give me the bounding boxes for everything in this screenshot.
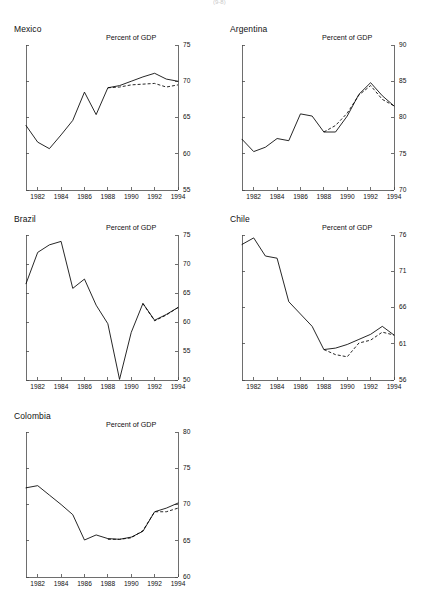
ytick-label: 60 bbox=[183, 150, 191, 157]
ytick-label: 61 bbox=[399, 340, 407, 347]
xtick-label: 1984 bbox=[54, 193, 69, 200]
plot-area-brazil: 5055606570751982198419861988199019921994 bbox=[6, 214, 210, 400]
xtick-label: 1988 bbox=[101, 580, 116, 587]
series-line-dashed bbox=[324, 332, 394, 357]
plot-area-mexico: 55606570751982198419861988199019921994 bbox=[6, 24, 210, 210]
chart-panel-mexico: MexicoPercent of GDP55606570751982198419… bbox=[6, 24, 210, 210]
series-line-solid bbox=[242, 83, 394, 152]
xtick-label: 1994 bbox=[387, 193, 402, 200]
ytick-label: 70 bbox=[183, 77, 191, 84]
xtick-label: 1988 bbox=[101, 193, 116, 200]
ytick-label: 80 bbox=[399, 113, 407, 120]
series-line-solid bbox=[242, 238, 394, 350]
ytick-label: 55 bbox=[183, 347, 191, 354]
ytick-label: 60 bbox=[183, 573, 191, 580]
xtick-label: 1992 bbox=[147, 580, 162, 587]
ytick-label: 75 bbox=[183, 464, 191, 471]
ytick-label: 75 bbox=[183, 41, 191, 48]
xtick-label: 1990 bbox=[124, 580, 139, 587]
ytick-label: 60 bbox=[183, 318, 191, 325]
xtick-label: 1992 bbox=[363, 383, 378, 390]
xtick-label: 1982 bbox=[30, 580, 45, 587]
ytick-label: 50 bbox=[183, 376, 191, 383]
xtick-label: 1992 bbox=[147, 383, 162, 390]
xtick-label: 1986 bbox=[77, 193, 92, 200]
page-number-artifact: (9-8) bbox=[213, 0, 226, 6]
xtick-label: 1984 bbox=[270, 383, 285, 390]
xtick-label: 1984 bbox=[270, 193, 285, 200]
ytick-label: 56 bbox=[399, 376, 407, 383]
xtick-label: 1982 bbox=[30, 193, 45, 200]
ytick-label: 71 bbox=[399, 267, 407, 274]
ytick-label: 75 bbox=[183, 231, 191, 238]
ytick-label: 66 bbox=[399, 303, 407, 310]
ytick-label: 76 bbox=[399, 231, 407, 238]
xtick-label: 1982 bbox=[246, 383, 261, 390]
ytick-label: 55 bbox=[183, 186, 191, 193]
plot-area-argentina: 70758085901982198419861988199019921994 bbox=[222, 24, 426, 210]
xtick-label: 1992 bbox=[147, 193, 162, 200]
xtick-label: 1986 bbox=[77, 383, 92, 390]
chart-panel-brazil: BrazilPercent of GDP50556065707519821984… bbox=[6, 214, 210, 400]
series-line-dashed bbox=[143, 303, 178, 320]
ytick-label: 65 bbox=[183, 289, 191, 296]
chart-panel-colombia: ColombiaPercent of GDP606570758019821984… bbox=[6, 411, 210, 590]
xtick-label: 1994 bbox=[171, 383, 186, 390]
ytick-label: 70 bbox=[183, 500, 191, 507]
series-line-solid bbox=[26, 486, 178, 540]
xtick-label: 1988 bbox=[317, 193, 332, 200]
ytick-label: 70 bbox=[399, 186, 407, 193]
series-line-solid bbox=[26, 241, 178, 379]
figure-root: (9-8) MexicoPercent of GDP55606570751982… bbox=[0, 0, 432, 590]
ytick-label: 70 bbox=[183, 260, 191, 267]
series-line-solid bbox=[26, 73, 178, 148]
plot-area-colombia: 60657075801982198419861988199019921994 bbox=[6, 411, 210, 590]
xtick-label: 1986 bbox=[293, 383, 308, 390]
ytick-label: 80 bbox=[183, 428, 191, 435]
xtick-label: 1992 bbox=[363, 193, 378, 200]
xtick-label: 1990 bbox=[124, 193, 139, 200]
xtick-label: 1984 bbox=[54, 383, 69, 390]
ytick-label: 85 bbox=[399, 77, 407, 84]
xtick-label: 1990 bbox=[340, 193, 355, 200]
plot-area-chile: 56616671761982198419861988199019921994 bbox=[222, 214, 426, 400]
xtick-label: 1982 bbox=[246, 193, 261, 200]
xtick-label: 1986 bbox=[77, 580, 92, 587]
ytick-label: 65 bbox=[183, 113, 191, 120]
xtick-label: 1994 bbox=[171, 580, 186, 587]
ytick-label: 90 bbox=[399, 41, 407, 48]
xtick-label: 1990 bbox=[340, 383, 355, 390]
chart-panel-chile: ChilePercent of GDP566166717619821984198… bbox=[222, 214, 426, 400]
xtick-label: 1994 bbox=[387, 383, 402, 390]
xtick-label: 1988 bbox=[101, 383, 116, 390]
series-line-dashed bbox=[108, 508, 178, 539]
xtick-label: 1986 bbox=[293, 193, 308, 200]
xtick-label: 1990 bbox=[124, 383, 139, 390]
ytick-label: 65 bbox=[183, 537, 191, 544]
ytick-label: 75 bbox=[399, 150, 407, 157]
series-line-dashed bbox=[324, 86, 394, 132]
xtick-label: 1982 bbox=[30, 383, 45, 390]
xtick-label: 1988 bbox=[317, 383, 332, 390]
xtick-label: 1984 bbox=[54, 580, 69, 587]
chart-panel-argentina: ArgentinaPercent of GDP70758085901982198… bbox=[222, 24, 426, 210]
xtick-label: 1994 bbox=[171, 193, 186, 200]
